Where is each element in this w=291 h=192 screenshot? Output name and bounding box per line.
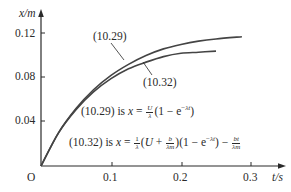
origin-label: O <box>27 172 35 184</box>
x-axis-label: t/s <box>272 172 283 184</box>
y-tick-label: 0.04 <box>15 115 35 127</box>
x-tick-label: 0.3 <box>243 172 257 184</box>
y-tick-label: 0.08 <box>15 71 35 83</box>
x-tick-label: 0.2 <box>173 172 187 184</box>
equation-10-29: (10.29) is x = Uλ(1 − e−λt) <box>81 105 194 120</box>
curve-label-10-29: (10.29) <box>93 31 127 43</box>
y-axis-label: x/m <box>19 8 36 20</box>
x-tick-label: 0.1 <box>103 172 117 184</box>
y-tick-label: 0.12 <box>15 28 35 40</box>
equation-10-32: (10.32) is x = 1λ(U + bλm)(1 − e−λt) − b… <box>69 136 241 151</box>
leader-line-10-29 <box>111 43 124 60</box>
chart-plot <box>0 0 291 192</box>
x-axis-arrow-icon <box>278 163 286 169</box>
curve-label-10-32: (10.32) <box>143 77 177 89</box>
y-axis-arrow-icon <box>38 9 44 17</box>
leader-line-10-32 <box>143 62 152 75</box>
